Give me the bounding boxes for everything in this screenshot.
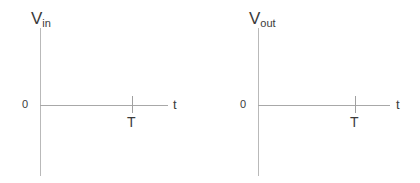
y-axis-label-vout-main: V <box>249 9 260 28</box>
x-axis-label-vin: t <box>173 98 177 111</box>
x-axis-line-vout <box>258 105 390 106</box>
origin-label-vin: 0 <box>22 99 28 110</box>
x-tick-mark-T-vout <box>355 96 356 113</box>
plot-vout: Vout 0 T t <box>210 0 420 183</box>
plot-vin: Vin 0 T t <box>0 0 210 183</box>
x-tick-label-T-vout: T <box>350 115 359 129</box>
y-axis-label-vout-subscript: out <box>260 17 275 29</box>
y-axis-label-vin-subscript: in <box>42 17 51 29</box>
y-axis-label-vin-main: V <box>31 9 42 28</box>
x-tick-label-T-vin: T <box>127 115 136 129</box>
origin-label-vout: 0 <box>240 99 246 110</box>
x-tick-mark-T-vin <box>132 96 133 113</box>
x-axis-label-vout: t <box>396 98 400 111</box>
y-axis-line-vin <box>40 28 41 176</box>
y-axis-label-vout: Vout <box>249 10 276 27</box>
y-axis-line-vout <box>258 28 259 176</box>
x-axis-line-vin <box>40 105 168 106</box>
y-axis-label-vin: Vin <box>31 10 51 27</box>
